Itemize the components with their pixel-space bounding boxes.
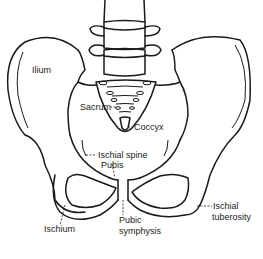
label-coccyx: Coccyx xyxy=(134,122,164,132)
label-pubic-symphysis-1: Pubic xyxy=(119,215,142,225)
right-ilium xyxy=(156,37,250,205)
label-ilium: Ilium xyxy=(32,65,51,75)
coccyx xyxy=(120,117,130,130)
label-pubis: Pubis xyxy=(101,160,124,170)
label-ischial-tuberosity-2: tuberosity xyxy=(212,212,252,222)
left-ilium xyxy=(8,38,96,213)
lumbar-spine xyxy=(89,0,161,76)
label-ischial-tuberosity-1: Ischial xyxy=(213,201,239,211)
pelvis-diagram: Ilium Sacrum Coccyx Ischial spine Pubis … xyxy=(0,0,263,259)
label-ischium: Ischium xyxy=(44,224,75,234)
label-pubic-symphysis-2: symphysis xyxy=(119,226,162,236)
label-sacrum: Sacrum xyxy=(80,102,111,112)
right-ischium xyxy=(128,174,200,216)
label-ischial-spine: Ischial spine xyxy=(98,150,148,160)
